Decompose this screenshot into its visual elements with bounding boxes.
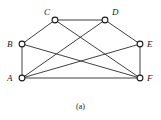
graph-vertex-d[interactable]	[102, 17, 108, 23]
vertices-group	[19, 17, 143, 81]
graph-edge-d-e	[105, 20, 140, 44]
graph-edge-b-c	[22, 20, 55, 44]
vertex-label-f: F	[147, 74, 153, 83]
graph-vertex-f[interactable]	[137, 75, 143, 81]
vertex-label-c: C	[44, 8, 50, 17]
vertex-label-d: D	[112, 8, 119, 17]
graph-vertex-e[interactable]	[137, 41, 143, 47]
graph-edge-c-f	[55, 20, 140, 78]
vertex-label-e: E	[147, 40, 153, 49]
graph-vertex-c[interactable]	[52, 17, 58, 23]
edges-group	[22, 20, 140, 78]
figure-container: ABCDEF (a)	[0, 0, 161, 120]
graph-edge-a-d	[22, 20, 105, 78]
graph-vertex-b[interactable]	[19, 41, 25, 47]
vertex-label-a: A	[7, 74, 13, 83]
graph-vertex-a[interactable]	[19, 75, 25, 81]
figure-caption: (a)	[0, 102, 161, 111]
vertex-label-b: B	[7, 40, 13, 49]
